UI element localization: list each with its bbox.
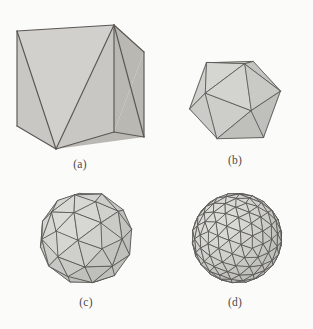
panel-b: (b) — [160, 48, 310, 178]
panel-a-canvas — [4, 6, 156, 156]
panel-c-canvas — [10, 184, 162, 294]
panel-a: (a) — [4, 6, 156, 178]
panel-c: (c) — [10, 184, 162, 324]
panel-d: (d) — [160, 184, 310, 324]
panel-d-caption: (d) — [160, 296, 310, 308]
panel-a-caption: (a) — [4, 158, 156, 170]
sphere-front-faces — [190, 61, 281, 138]
panel-b-caption: (b) — [160, 154, 310, 166]
sphere-front-faces — [192, 193, 281, 282]
panel-b-canvas — [160, 48, 310, 152]
panel-c-caption: (c) — [10, 296, 162, 308]
panel-d-canvas — [160, 184, 310, 294]
sphere-front-faces — [41, 193, 132, 282]
figure-root: (a) (b) (c) (d) — [0, 0, 313, 329]
